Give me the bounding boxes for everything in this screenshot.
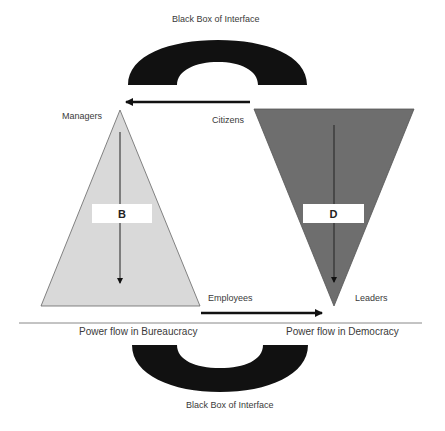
citizens-label: Citizens: [212, 115, 244, 126]
top-interface-arch: [128, 40, 307, 85]
bureaucracy-letter-box: B: [92, 204, 152, 223]
managers-label: Managers: [62, 111, 102, 122]
democracy-letter-box: D: [303, 204, 364, 223]
bureaucracy-caption: Power flow in Bureaucracy: [79, 326, 197, 337]
leaders-label: Leaders: [355, 293, 388, 304]
top-arch-caption: Black Box of Interface: [172, 14, 260, 25]
bottom-arch-caption: Black Box of Interface: [186, 400, 274, 411]
democracy-caption: Power flow in Democracy: [286, 326, 399, 337]
diagram-canvas: [0, 0, 445, 431]
bottom-interface-arch: [132, 345, 308, 392]
employees-label: Employees: [208, 293, 253, 304]
